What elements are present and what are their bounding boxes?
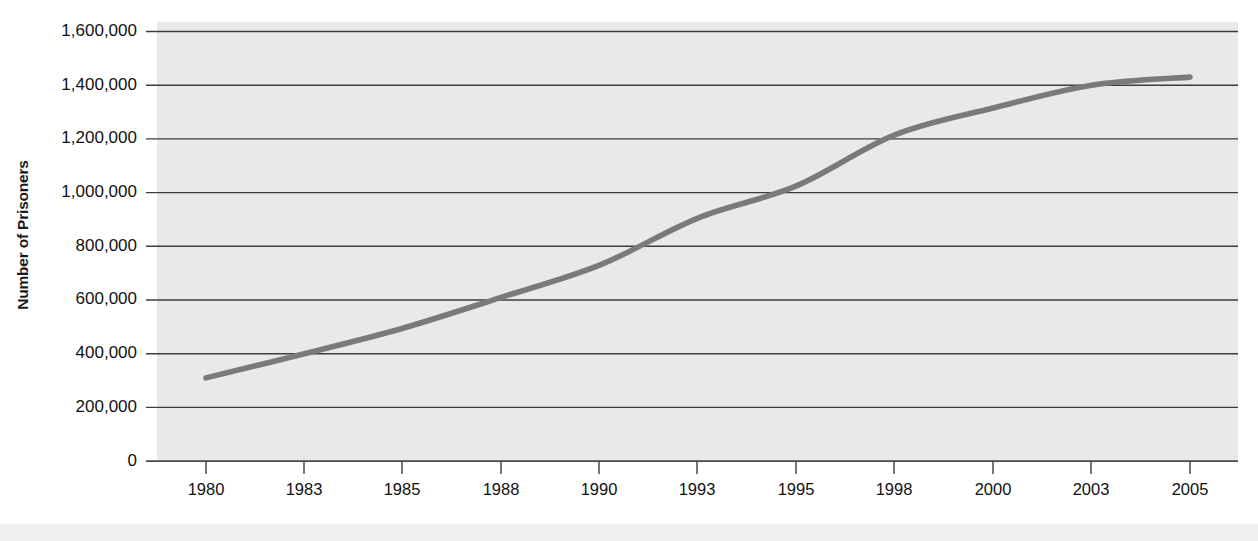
y-tick-label: 0 [128, 451, 137, 470]
y-tick-label: 600,000 [76, 289, 137, 308]
x-tick-label: 1980 [188, 480, 225, 498]
x-tick-label: 1985 [384, 480, 421, 498]
x-tick-label: 1998 [876, 480, 913, 498]
y-tick-label: 400,000 [76, 343, 137, 362]
x-tick-label: 1993 [679, 480, 716, 498]
x-tick-label: 1995 [778, 480, 815, 498]
x-tick-label: 1983 [286, 480, 323, 498]
y-tick-label: 200,000 [76, 397, 137, 416]
y-axis-tick-labels: 1,600,000 1,400,000 1,200,000 1,000,000 … [61, 21, 137, 470]
x-tick-label: 2003 [1073, 480, 1110, 498]
x-tick-label: 2000 [975, 480, 1012, 498]
page-bottom-band [0, 524, 1258, 541]
y-tick-label: 1,600,000 [61, 21, 137, 40]
y-tick-label: 1,400,000 [61, 75, 137, 94]
line-chart: 1,600,000 1,400,000 1,200,000 1,000,000 … [0, 0, 1258, 541]
chart-figure: Number of Prisoners 1,600,000 1,400,000 … [0, 0, 1258, 541]
y-tick-label: 1,000,000 [61, 182, 137, 201]
x-tick-label: 1990 [581, 480, 618, 498]
y-tick-label: 1,200,000 [61, 128, 137, 147]
x-tick-label: 1988 [483, 480, 520, 498]
x-axis-tick-labels: 1980 1983 1985 1988 1990 1993 1995 1998 … [188, 480, 1209, 498]
x-tick-label: 2005 [1172, 480, 1209, 498]
x-axis-tick-marks [206, 461, 1190, 474]
y-tick-label: 800,000 [76, 236, 137, 255]
